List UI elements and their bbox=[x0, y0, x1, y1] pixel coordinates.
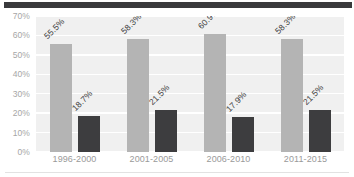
bar-series-light-2011-2015[interactable] bbox=[281, 39, 303, 152]
bar-value-label: 21.5% bbox=[146, 83, 170, 107]
bar-value-label: 58.3% bbox=[118, 16, 142, 36]
bar-value-label: 18.7% bbox=[69, 88, 93, 112]
y-axis-tick-label: 0% bbox=[18, 147, 31, 157]
bar-series-light-1996-2000[interactable] bbox=[50, 44, 72, 152]
bar-group: 58.3%21.5% bbox=[113, 16, 190, 152]
bar-value-label: 21.5% bbox=[300, 83, 324, 107]
bar-series-dark-2001-2005[interactable] bbox=[155, 110, 177, 152]
bar-value-label: 58.3% bbox=[272, 16, 296, 36]
bar-series-dark-2006-2010[interactable] bbox=[232, 117, 254, 152]
bar-series-dark-2011-2015[interactable] bbox=[309, 110, 331, 152]
y-axis-tick-label: 30% bbox=[13, 89, 30, 99]
y-axis-tick-label: 10% bbox=[13, 128, 30, 138]
bar-value-label: 60.9% bbox=[195, 16, 219, 31]
x-axis-tick-label: 2001-2005 bbox=[130, 154, 174, 164]
bar-group: 58.3%21.5% bbox=[267, 16, 344, 152]
x-axis-tick-label: 2006-2010 bbox=[207, 154, 251, 164]
bar-group: 60.9%17.9% bbox=[190, 16, 267, 152]
bar-series-light-2001-2005[interactable] bbox=[127, 39, 149, 152]
y-axis-tick-label: 20% bbox=[13, 108, 30, 118]
top-band-decoration bbox=[4, 2, 352, 8]
y-axis-tick-label: 50% bbox=[13, 50, 30, 60]
y-axis-tick-label: 40% bbox=[13, 69, 30, 79]
bar-value-label: 17.9% bbox=[223, 90, 247, 114]
chart-figure: 0%10%20%30%40%50%60%70% 55.5%18.7%58.3%2… bbox=[0, 0, 354, 177]
y-axis: 0%10%20%30%40%50%60%70% bbox=[0, 16, 33, 152]
y-axis-tick-label: 60% bbox=[13, 30, 30, 40]
bottom-rule bbox=[5, 172, 349, 173]
y-axis-tick-label: 70% bbox=[13, 11, 30, 21]
plot-wrapper: 55.5%18.7%58.3%21.5%60.9%17.9%58.3%21.5% bbox=[36, 16, 344, 152]
x-axis: 1996-20002001-20052006-20102011-2015 bbox=[36, 154, 344, 168]
bar-value-label: 55.5% bbox=[41, 17, 65, 41]
bar-series-dark-1996-2000[interactable] bbox=[78, 116, 100, 152]
bar-group: 55.5%18.7% bbox=[36, 16, 113, 152]
bar-series-light-2006-2010[interactable] bbox=[204, 34, 226, 152]
plot-area: 55.5%18.7%58.3%21.5%60.9%17.9%58.3%21.5% bbox=[36, 16, 344, 152]
x-axis-tick-label: 2011-2015 bbox=[284, 154, 327, 164]
x-axis-tick-label: 1996-2000 bbox=[53, 154, 97, 164]
